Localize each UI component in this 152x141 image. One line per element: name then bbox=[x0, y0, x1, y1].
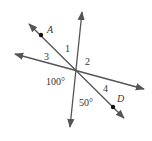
angle-label-1: 1 bbox=[65, 43, 70, 54]
point-A bbox=[39, 33, 43, 37]
label-D: D bbox=[116, 93, 125, 104]
angle-label-100: 100° bbox=[46, 76, 65, 87]
point-D bbox=[111, 105, 115, 109]
line-horizontal bbox=[15, 54, 144, 89]
angle-label-2: 2 bbox=[85, 56, 90, 67]
label-A: A bbox=[46, 24, 54, 35]
angle-label-50: 50° bbox=[79, 97, 93, 108]
angle-label-4: 4 bbox=[103, 83, 108, 94]
diagram-canvas: A D 1 2 3 4 100° 50° bbox=[0, 0, 152, 141]
angle-label-3: 3 bbox=[44, 51, 49, 62]
